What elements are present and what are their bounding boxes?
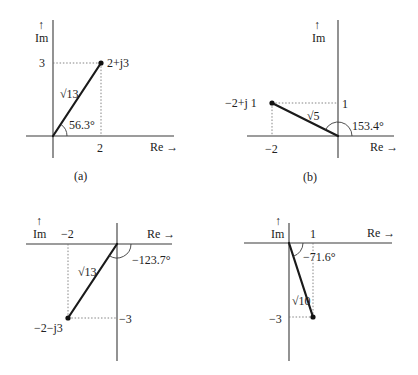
im-axis-label: Im bbox=[35, 31, 49, 45]
magnitude-label: √5 bbox=[307, 109, 320, 123]
up-arrow-icon: ↑ bbox=[275, 214, 281, 228]
angle-label: 153.4° bbox=[352, 119, 384, 133]
x-tick-label: 1 bbox=[310, 227, 316, 241]
phasor-point bbox=[269, 100, 274, 105]
y-tick-label: −3 bbox=[119, 312, 132, 326]
up-arrow-icon: ↑ bbox=[36, 214, 42, 228]
magnitude-label: √13 bbox=[78, 265, 97, 279]
panel-b: ↑ Im 1 −2 Re → −2+j 1 √5 153.4° (b) bbox=[225, 18, 398, 184]
angle-arc bbox=[293, 243, 303, 256]
y-tick-label: 3 bbox=[39, 56, 45, 70]
phasor-point bbox=[310, 314, 315, 319]
angle-arc bbox=[61, 124, 67, 136]
point-label: 2+j3 bbox=[107, 56, 129, 70]
x-tick-label: −2 bbox=[61, 227, 74, 241]
phasor-vector bbox=[272, 103, 338, 136]
im-axis-label: Im bbox=[271, 227, 285, 241]
angle-label: −123.7° bbox=[132, 253, 171, 267]
x-tick-label: −2 bbox=[265, 142, 278, 156]
phasor-point bbox=[65, 315, 70, 320]
panel-caption: (a) bbox=[74, 169, 87, 183]
panel-caption: (b) bbox=[303, 170, 317, 184]
point-label: −2+j 1 bbox=[225, 96, 257, 110]
phasor-vector bbox=[68, 244, 117, 318]
magnitude-label: √13 bbox=[60, 87, 79, 101]
y-tick-label: −3 bbox=[269, 312, 282, 326]
up-arrow-icon: ↑ bbox=[314, 18, 320, 32]
up-arrow-icon: ↑ bbox=[38, 18, 44, 32]
re-axis-label: Re → bbox=[367, 226, 395, 240]
panel-d: ↑ Im 1 −3 Re → √10 −71.6° bbox=[244, 214, 395, 361]
x-tick-label: 2 bbox=[97, 141, 103, 155]
figure-canvas: ↑ Im 3 2 Re → 2+j3 √13 56.3° (a) ↑ Im 1 … bbox=[0, 0, 418, 375]
y-tick-label: 1 bbox=[342, 97, 348, 111]
angle-label: −71.6° bbox=[303, 250, 336, 264]
re-axis-label: Re → bbox=[370, 140, 398, 154]
re-axis-label: Re → bbox=[147, 227, 175, 241]
im-axis-label: Im bbox=[33, 227, 47, 241]
re-axis-label: Re → bbox=[150, 140, 178, 154]
point-label: −2−j3 bbox=[34, 321, 63, 335]
angle-label: 56.3° bbox=[69, 118, 95, 132]
phasor-point bbox=[98, 60, 103, 65]
im-axis-label: Im bbox=[312, 31, 326, 45]
angle-arc bbox=[326, 122, 353, 136]
magnitude-label: √10 bbox=[292, 294, 311, 308]
phasor-figure: ↑ Im 3 2 Re → 2+j3 √13 56.3° (a) ↑ Im 1 … bbox=[0, 0, 418, 375]
panel-c: ↑ Im −2 −3 Re → −2−j3 √13 −123.7° bbox=[26, 214, 175, 361]
panel-a: ↑ Im 3 2 Re → 2+j3 √13 56.3° (a) bbox=[26, 18, 178, 183]
